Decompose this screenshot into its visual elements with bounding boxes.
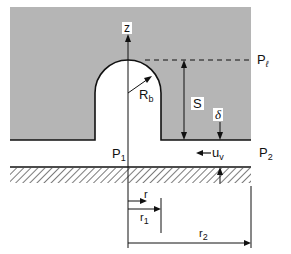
bubble-radius-text: R <box>139 87 148 102</box>
inner-pressure-label: P1 <box>112 147 126 163</box>
radius-r-text: r <box>144 188 148 200</box>
bubble-radius-label: Rb <box>139 88 153 104</box>
vapor-velocity-sub: v <box>219 152 224 162</box>
height-s-label: S <box>191 97 204 110</box>
outer-pressure-sub: 2 <box>268 152 273 162</box>
inner-pressure-sub: 1 <box>121 153 126 163</box>
film-thickness-label: δ <box>213 108 223 121</box>
liquid-pressure-text: P <box>257 52 266 67</box>
radius-r1-label: r1 <box>140 212 149 226</box>
vapor-velocity-arrowhead <box>196 150 203 156</box>
liquid-pressure-sub: ℓ <box>266 59 269 69</box>
radius-r1-arrowhead <box>154 206 161 212</box>
z-axis-text: z <box>124 21 130 35</box>
film-thickness-text: δ <box>215 107 221 122</box>
z-axis-label: z <box>122 22 132 34</box>
outer-pressure-label: P2 <box>259 146 273 162</box>
outer-pressure-text: P <box>259 145 268 160</box>
vapor-velocity-label: uv <box>212 146 224 162</box>
radius-r2-arrowhead <box>244 240 251 246</box>
radius-r2-sub: 2 <box>203 232 208 242</box>
radius-r2-label: r2 <box>199 228 208 242</box>
height-s-text: S <box>193 96 202 111</box>
bubble-radius-sub: b <box>148 94 153 104</box>
radius-r-label: r <box>144 189 148 200</box>
wall-hatching <box>10 168 251 183</box>
radius-r1-sub: 1 <box>144 216 149 226</box>
liquid-pressure-label: Pℓ <box>257 53 269 69</box>
inner-pressure-text: P <box>112 146 121 161</box>
